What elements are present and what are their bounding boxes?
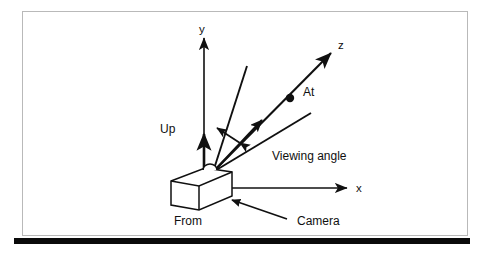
label-from-point: From xyxy=(174,215,202,227)
diagram-canvas xyxy=(0,0,485,255)
arrow-pointer-icon xyxy=(232,200,287,219)
label-y-axis: y xyxy=(199,23,205,35)
label-x-axis: x xyxy=(356,182,362,194)
label-at-point: At xyxy=(303,86,314,98)
label-up-vector: Up xyxy=(160,123,175,135)
label-z-axis: z xyxy=(338,39,344,51)
double-arrow-icon xyxy=(217,128,240,143)
camera-box-outline xyxy=(171,168,232,210)
camera-box-icon xyxy=(171,164,232,210)
dot-icon xyxy=(286,94,294,102)
viewing-angle-measure xyxy=(217,128,240,143)
lens-dome-icon xyxy=(203,164,217,170)
camera-pointer xyxy=(232,200,287,219)
label-camera: Camera xyxy=(297,215,340,227)
diagram-page: y z x Up At Viewing angle From Camera xyxy=(0,0,485,255)
label-viewing-angle: Viewing angle xyxy=(272,150,347,162)
